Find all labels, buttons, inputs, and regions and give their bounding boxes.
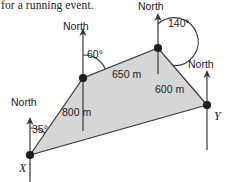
angle-label-140: 140° <box>168 17 190 29</box>
vertex-label-y: Y <box>214 109 222 123</box>
vertex-dot-b <box>154 44 162 52</box>
north-label-y: North <box>188 58 214 70</box>
north-label-b: North <box>138 0 164 12</box>
vertex-dot-y <box>203 101 211 109</box>
vertex-dot-a <box>79 74 87 82</box>
side-label-650m: 650 m <box>112 68 141 80</box>
angle-label-60: 60° <box>87 48 103 60</box>
shaded-region <box>30 48 207 155</box>
vertex-dot-x <box>26 151 34 159</box>
north-label-x: North <box>11 96 37 108</box>
bearing-diagram-figure: for a running event. <box>0 0 229 182</box>
vertex-label-x: X <box>18 161 27 175</box>
angle-label-35: 35° <box>32 123 48 135</box>
side-label-800m: 800 m <box>62 106 91 118</box>
side-label-600m: 600 m <box>155 83 184 95</box>
north-label-a: North <box>63 20 89 32</box>
diagram-canvas: North North North North 35° 60° 140° 800… <box>0 0 229 182</box>
